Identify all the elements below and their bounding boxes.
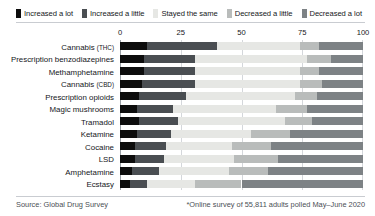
bar-segment — [242, 180, 364, 188]
bar-segment — [147, 42, 217, 50]
bar-row[interactable] — [120, 117, 363, 125]
bar-segment — [147, 180, 196, 188]
bar-segment — [319, 42, 363, 50]
legend-label-increased-a-lot: Increased a lot — [24, 9, 73, 18]
bar-row[interactable] — [120, 67, 363, 75]
bar-segment — [268, 167, 363, 175]
legend-swatch-increased-a-lot — [16, 9, 21, 18]
chart-legend: Increased a lot Increased a little Staye… — [16, 7, 362, 19]
bar-segment — [120, 105, 137, 113]
bar-segment — [251, 130, 290, 138]
bar-segment — [276, 105, 308, 113]
bar-row[interactable] — [120, 142, 363, 150]
legend-label-stayed-the-same: Stayed the same — [161, 9, 217, 18]
bar-segment — [135, 155, 164, 163]
category-label-main: Magic mushrooms — [50, 105, 114, 114]
category-label-main: Prescription opioids — [45, 93, 114, 102]
legend-item-stayed-the-same: Stayed the same — [153, 9, 217, 18]
bar-segment — [217, 42, 300, 50]
category-label-main: Prescription benzodiazepines — [11, 55, 114, 64]
category-label: Magic mushrooms — [50, 105, 114, 114]
bar-row[interactable] — [120, 180, 363, 188]
bar-row[interactable] — [120, 92, 363, 100]
legend-swatch-increased-a-little — [82, 9, 87, 18]
survey-note: *Online survey of 55,811 adults polled M… — [186, 200, 365, 209]
bar-segment — [144, 55, 195, 63]
bar-row[interactable] — [120, 155, 363, 163]
bar-row[interactable] — [120, 105, 363, 113]
bar-segment — [132, 167, 159, 175]
bar-segment — [319, 67, 363, 75]
bar-segment — [120, 130, 137, 138]
bar-segment — [307, 55, 331, 63]
bar-segment — [139, 92, 185, 100]
bar-segment — [120, 117, 139, 125]
category-label-sub: (THC) — [97, 44, 114, 51]
bar-segment — [285, 117, 312, 125]
bar-segment — [135, 142, 167, 150]
bar-segment — [142, 80, 195, 88]
legend-item-increased-a-lot: Increased a lot — [16, 9, 73, 18]
category-label-main: Ketamine — [81, 130, 114, 139]
bar-segment — [295, 92, 317, 100]
category-label-main: LSD — [99, 155, 114, 164]
bar-rows — [120, 40, 363, 190]
category-label-main: Cannabis — [61, 43, 97, 52]
bar-segment — [195, 180, 241, 188]
x-axis-tick-labels: 0255075100 — [120, 28, 363, 39]
category-label: Cannabis (CBD) — [61, 80, 114, 89]
bar-row[interactable] — [120, 42, 363, 50]
bar-segment — [186, 92, 295, 100]
bar-segment — [130, 180, 147, 188]
bar-row[interactable] — [120, 130, 363, 138]
bar-row[interactable] — [120, 80, 363, 88]
category-label: Prescription benzodiazepines — [11, 55, 114, 64]
category-label-main: Tramadol — [81, 118, 114, 127]
bar-segment — [171, 130, 251, 138]
bar-segment — [271, 142, 363, 150]
category-label-main: Ecstasy — [86, 180, 114, 189]
bar-row[interactable] — [120, 167, 363, 175]
category-label-main: Amphetamine — [65, 168, 114, 177]
category-label: Ketamine — [81, 130, 114, 139]
category-label-main: Methamphetamine — [49, 68, 114, 77]
category-label: LSD — [99, 155, 114, 164]
x-tick-100: 100 — [357, 28, 370, 37]
bar-segment — [312, 117, 363, 125]
legend-item-decreased-a-little: Decreased a little — [227, 9, 293, 18]
bar-segment — [166, 142, 232, 150]
bar-segment — [300, 80, 322, 88]
bar-segment — [144, 67, 195, 75]
footer-divider — [16, 196, 365, 197]
legend-item-increased-a-little: Increased a little — [82, 9, 144, 18]
bar-segment — [164, 155, 234, 163]
bar-segment — [159, 167, 229, 175]
bar-segment — [290, 130, 363, 138]
bar-segment — [120, 180, 130, 188]
bar-segment — [278, 155, 363, 163]
x-tick-75: 75 — [298, 28, 306, 37]
bar-segment — [317, 92, 363, 100]
bar-segment — [234, 155, 278, 163]
bar-segment — [120, 42, 147, 50]
x-tick-0: 0 — [118, 28, 122, 37]
legend-divider — [16, 22, 365, 23]
legend-label-increased-a-little: Increased a little — [90, 9, 144, 18]
legend-label-decreased-a-little: Decreased a little — [235, 9, 293, 18]
category-label-main: Cannabis — [61, 80, 97, 89]
x-tick-25: 25 — [177, 28, 185, 37]
bar-segment — [173, 105, 275, 113]
bar-row[interactable] — [120, 55, 363, 63]
category-label: Amphetamine — [65, 168, 114, 177]
bar-segment — [120, 67, 144, 75]
bar-segment — [331, 55, 363, 63]
bar-segment — [137, 105, 173, 113]
legend-swatch-stayed-the-same — [153, 9, 158, 18]
bar-segment — [195, 80, 299, 88]
bar-segment — [229, 167, 268, 175]
category-label: Tramadol — [81, 118, 114, 127]
plot-area — [120, 40, 363, 190]
legend-label-decreased-a-lot: Decreased a lot — [310, 9, 362, 18]
bar-segment — [232, 142, 271, 150]
legend-swatch-decreased-a-little — [227, 9, 232, 18]
